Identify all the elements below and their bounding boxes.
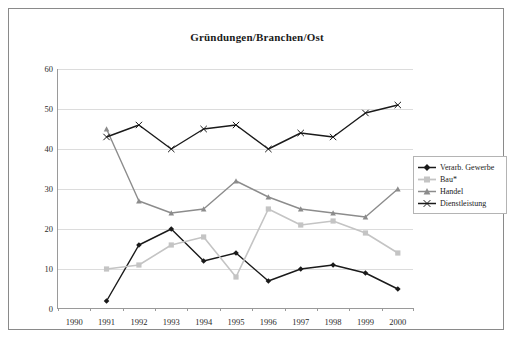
x-tick-1997: 1997 (292, 317, 309, 327)
chart-legend: Verarb. GewerbeBau*HandelDienstleistung (413, 156, 507, 214)
legend-item-handel[interactable]: Handel (417, 185, 502, 197)
y-tick-10: 10 (45, 264, 54, 274)
legend-label: Dienstleistung (440, 198, 486, 209)
legend-item-bau[interactable]: Bau* (417, 173, 502, 185)
x-tick-1993: 1993 (163, 317, 180, 327)
legend-marker-x-icon (417, 198, 437, 209)
series-verarb-gewerbe (104, 226, 401, 304)
legend-marker-diamond-icon (417, 162, 437, 173)
legend-item-dienstleistung[interactable]: Dienstleistung (417, 197, 502, 209)
x-tick-1998: 1998 (325, 317, 342, 327)
x-tick-2000: 2000 (389, 317, 406, 327)
x-tick-1996: 1996 (260, 317, 277, 327)
y-tick-30: 30 (45, 184, 54, 194)
series-handel (104, 126, 401, 219)
plot-area: 0102030405060 19901991199219931994199519… (57, 69, 413, 309)
y-tick-20: 20 (45, 224, 54, 234)
y-tick-50: 50 (45, 104, 54, 114)
series-layer (58, 69, 414, 309)
series-dienstleistung (103, 102, 401, 152)
x-tick-1994: 1994 (195, 317, 212, 327)
legend-marker-triangle-icon (417, 186, 437, 197)
series-bau (104, 206, 400, 279)
legend-label: Bau* (440, 174, 457, 185)
legend-label: Verarb. Gewerbe (440, 162, 494, 173)
y-tick-40: 40 (45, 144, 54, 154)
chart-title: Gründungen/Branchen/Ost (9, 31, 505, 43)
y-tick-0: 0 (49, 304, 53, 314)
x-tick-1992: 1992 (130, 317, 147, 327)
chart-frame: Gründungen/Branchen/Ost 0102030405060 19… (8, 8, 504, 330)
legend-label: Handel (440, 186, 463, 197)
x-tick-1991: 1991 (98, 317, 115, 327)
legend-item-verarb-gewerbe[interactable]: Verarb. Gewerbe (417, 161, 502, 173)
x-tick-1995: 1995 (228, 317, 245, 327)
y-tick-60: 60 (45, 64, 54, 74)
x-tick-1999: 1999 (357, 317, 374, 327)
x-tick-1990: 1990 (66, 317, 83, 327)
legend-marker-square-icon (417, 174, 437, 185)
